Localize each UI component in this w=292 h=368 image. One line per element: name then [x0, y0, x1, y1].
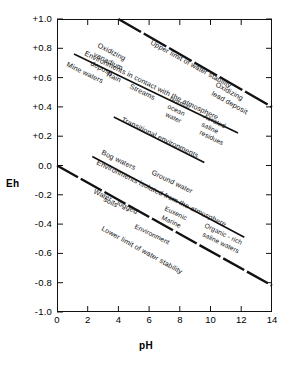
eh-ph-diagram: +1.0 +0.8 +0.6 +0.4 +0.2 0.0 -0.2 -0.4 -…: [0, 0, 292, 368]
line-lower-water-stability: [57, 166, 272, 286]
plot-canvas: Oxidizing vanadium deposit Upper limit o…: [0, 0, 292, 368]
label-env-contact-atmosphere: Environments in contact with the atmosph…: [83, 50, 220, 122]
label-transitional-environments: Transitional environments: [120, 116, 200, 160]
